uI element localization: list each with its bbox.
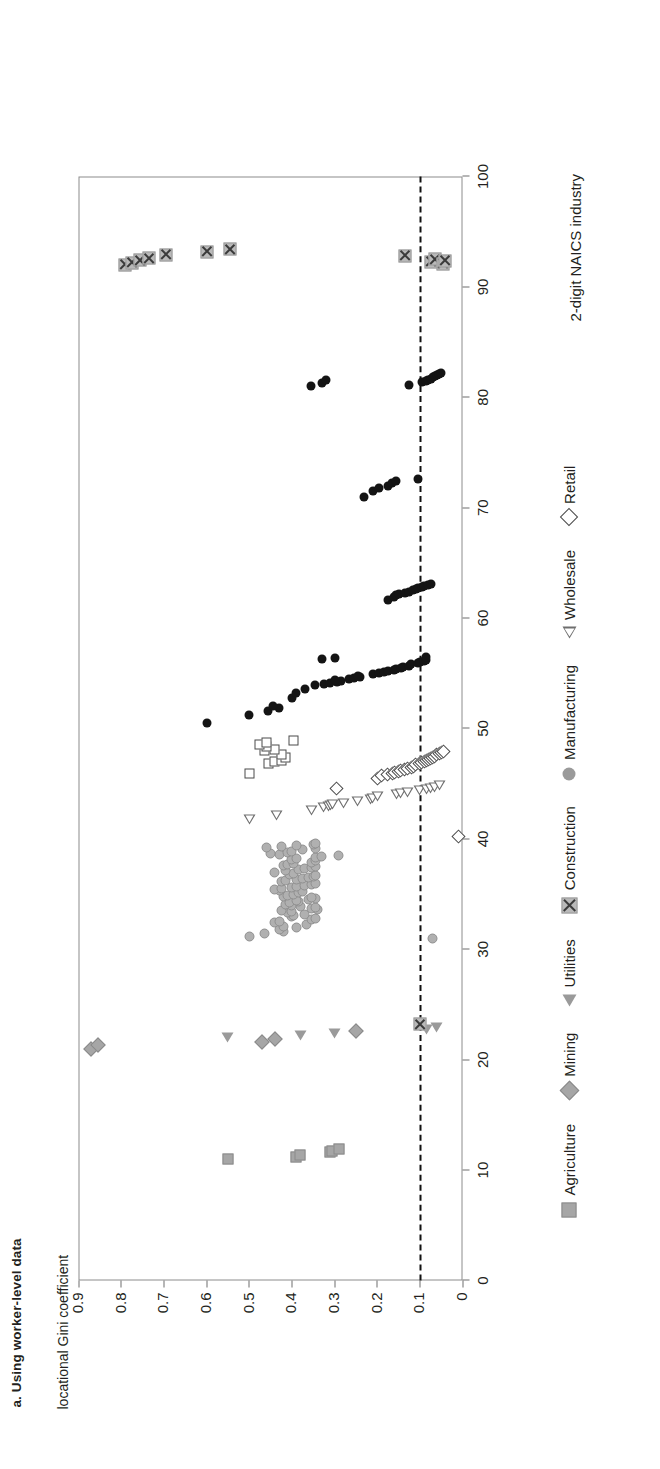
data-point-marker <box>310 838 320 848</box>
data-point-marker <box>261 737 271 747</box>
data-point-marker <box>359 492 368 501</box>
x-axis-tick-label: 0 <box>473 1258 490 1302</box>
x-axis-tick <box>462 1280 469 1281</box>
data-point-marker <box>421 652 430 661</box>
data-point-marker <box>321 375 330 384</box>
data-point-marker <box>159 248 172 261</box>
data-point-marker <box>305 805 317 815</box>
data-point-marker <box>333 850 343 860</box>
x-axis-tick-label: 40 <box>473 816 490 860</box>
x-axis-tick-label: 30 <box>473 927 490 971</box>
data-point-marker <box>300 684 309 693</box>
x-box-icon <box>561 897 577 913</box>
data-point-marker <box>374 483 383 492</box>
x-axis-tick <box>462 396 469 397</box>
y-axis-tick <box>462 1280 463 1287</box>
data-point-marker <box>404 380 413 389</box>
data-point-marker <box>243 814 255 824</box>
y-axis-tick-label: 0.9 <box>68 1292 85 1336</box>
legend-item[interactable]: Agriculture <box>560 1123 577 1217</box>
data-point-marker <box>200 245 213 258</box>
data-point-marker <box>330 675 339 684</box>
data-point-marker <box>306 381 315 390</box>
data-point-marker <box>430 1022 442 1032</box>
y-axis-tick-label: 0.4 <box>281 1292 298 1336</box>
filled-circle-icon <box>562 767 575 780</box>
data-point-marker <box>270 810 282 820</box>
open-triangle-icon <box>562 626 576 638</box>
data-point-marker <box>221 1032 233 1042</box>
legend-item[interactable]: Manufacturing <box>560 664 577 779</box>
y-axis-tick-label: 0.3 <box>324 1292 341 1336</box>
y-axis-tick-label: 0.5 <box>239 1292 256 1336</box>
data-point-marker <box>413 474 422 483</box>
y-axis-tick-label: 0.7 <box>153 1292 170 1336</box>
legend-item[interactable]: Wholesale <box>560 549 577 638</box>
y-axis-tick <box>163 1280 164 1287</box>
x-axis-tick-label: 70 <box>473 485 490 529</box>
y-axis-tick <box>291 1280 292 1287</box>
x-axis-tick-label: 60 <box>473 596 490 640</box>
y-axis-tick <box>334 1280 335 1287</box>
data-point-marker <box>269 867 279 877</box>
data-point-marker <box>333 1143 344 1154</box>
x-axis-tick <box>462 507 469 508</box>
data-point-marker <box>398 249 411 262</box>
y-axis-tick-label: 0.6 <box>196 1292 213 1336</box>
x-axis-tick-label: 20 <box>473 1037 490 1081</box>
filled-triangle-icon <box>562 994 576 1006</box>
plot-area <box>78 176 462 1280</box>
y-axis-tick-label: 0 <box>452 1292 469 1336</box>
x-axis-tick-label: 80 <box>473 375 490 419</box>
data-point-marker <box>294 1030 306 1040</box>
x-axis-tick <box>462 728 469 729</box>
legend-item[interactable]: Mining <box>560 1032 577 1097</box>
filled-diamond-icon <box>559 1080 579 1100</box>
legend-label: Manufacturing <box>560 664 577 759</box>
data-point-marker <box>291 688 300 697</box>
data-point-marker <box>244 931 254 941</box>
y-axis-tick <box>248 1280 249 1287</box>
y-axis-tick-label: 0.1 <box>409 1292 426 1336</box>
x-axis-tick <box>462 1059 469 1060</box>
x-axis-tick <box>462 286 469 287</box>
y-axis-tick <box>419 1280 420 1287</box>
reference-line <box>419 176 421 1280</box>
legend-label: Wholesale <box>560 549 577 619</box>
data-point-marker <box>433 780 445 790</box>
data-point-marker <box>244 768 254 778</box>
data-point-marker <box>438 254 451 267</box>
data-point-marker <box>391 476 400 485</box>
data-point-marker <box>328 1028 340 1038</box>
x-axis-tick <box>462 838 469 839</box>
x-axis-tick-label: 10 <box>473 1148 490 1192</box>
data-point-marker <box>276 841 286 851</box>
data-point-marker <box>288 735 298 745</box>
y-axis-tick-label: 0.2 <box>367 1292 384 1336</box>
data-point-marker <box>261 842 271 852</box>
y-axis-tick <box>78 1280 79 1287</box>
y-axis-tick <box>376 1280 377 1287</box>
data-point-marker <box>401 787 413 797</box>
legend-item[interactable]: Construction <box>560 806 577 913</box>
data-point-marker <box>291 840 301 850</box>
data-point-marker <box>142 251 155 264</box>
data-point-marker <box>294 1149 305 1160</box>
data-point-marker <box>371 791 383 801</box>
legend-item[interactable]: Retail <box>560 465 577 523</box>
data-point-marker <box>427 933 437 943</box>
data-point-marker <box>268 701 277 710</box>
y-axis-tick <box>206 1280 207 1287</box>
x-axis-tick <box>462 176 469 177</box>
data-point-marker <box>244 710 253 719</box>
legend-label: Agriculture <box>560 1123 577 1195</box>
data-point-marker <box>337 798 349 808</box>
data-point-marker <box>274 916 284 926</box>
data-point-marker <box>426 579 435 588</box>
page-title: a. Using worker-level data <box>8 1238 23 1407</box>
figure-root: a. Using worker-level data locational Gi… <box>0 0 660 1469</box>
legend-item[interactable]: Utilities <box>560 939 577 1006</box>
data-point-marker <box>436 368 445 377</box>
data-point-marker <box>222 1153 233 1164</box>
x-axis-tick <box>462 617 469 618</box>
